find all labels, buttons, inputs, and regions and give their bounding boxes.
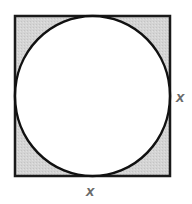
side-length-label-right: x [176, 89, 184, 104]
inscribed-circle [15, 16, 170, 176]
inscribed-circle-diagram [0, 0, 192, 204]
side-length-label-bottom: x [86, 183, 94, 198]
